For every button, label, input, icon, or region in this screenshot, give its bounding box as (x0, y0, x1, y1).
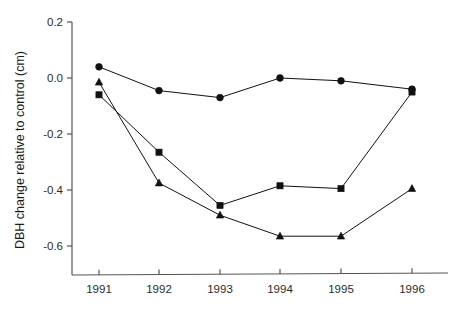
x-axis-tick-label: 1996 (399, 283, 425, 295)
data-point-circle (277, 75, 284, 82)
data-point-triangle (216, 211, 223, 218)
series-line (99, 92, 412, 205)
x-axis-tick-label: 1993 (207, 283, 233, 295)
data-point-triangle (337, 232, 344, 239)
series-line (99, 82, 412, 236)
x-axis-tick-label: 1995 (328, 283, 354, 295)
data-point-square (338, 186, 344, 192)
data-point-square (156, 149, 162, 155)
y-axis-tick-label: -0.6 (43, 240, 63, 252)
data-point-square (277, 183, 283, 189)
y-axis-tick-label: -0.4 (43, 184, 63, 196)
x-axis-tick-label: 1992 (146, 283, 172, 295)
data-point-square (409, 89, 415, 95)
chart-container: 0.20.0-0.2-0.4-0.61991199219931994199519… (0, 0, 457, 310)
series-line (99, 67, 412, 98)
y-axis-tick-label: 0.2 (47, 16, 63, 28)
x-axis-tick-label: 1994 (267, 283, 293, 295)
data-point-circle (217, 94, 224, 101)
data-point-circle (338, 77, 345, 84)
data-point-circle (156, 87, 163, 94)
data-point-circle (96, 63, 103, 70)
series-square (96, 89, 415, 209)
data-point-triangle (95, 78, 102, 85)
y-axis-title: DBH change relative to control (cm) (13, 51, 27, 249)
data-point-triangle (408, 185, 415, 192)
line-chart: 0.20.0-0.2-0.4-0.61991199219931994199519… (0, 0, 457, 310)
x-axis-tick-label: 1991 (86, 283, 112, 295)
y-axis-tick-label: -0.2 (43, 128, 63, 140)
data-point-square (96, 92, 102, 98)
series-triangle (95, 78, 415, 239)
data-point-triangle (155, 179, 162, 186)
y-axis-tick-label: 0.0 (47, 72, 63, 84)
data-point-square (217, 202, 223, 208)
x-axis-line (72, 273, 448, 275)
series-circle (96, 63, 416, 101)
